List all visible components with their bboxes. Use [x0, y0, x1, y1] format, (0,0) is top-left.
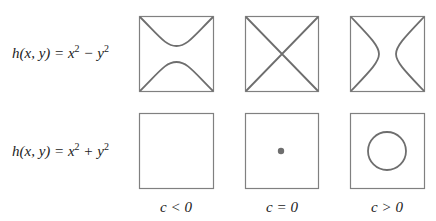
column-label-c-neg: c < 0	[136, 199, 216, 216]
hyperbola-right-branch	[396, 17, 424, 91]
hyperbola-upper-branch	[140, 17, 213, 46]
panel-bowl-c-neg	[140, 114, 214, 189]
level-point	[278, 148, 284, 154]
level-circle	[368, 132, 406, 170]
level-sets-diagram	[0, 0, 436, 221]
hyperbola-left-branch	[351, 17, 379, 91]
hyperbola-lower-branch	[140, 62, 213, 91]
column-label-c-pos: c > 0	[347, 199, 427, 216]
crossing-lines	[246, 17, 318, 91]
column-label-c-zero: c = 0	[242, 199, 322, 216]
panel-bowl-c-pos	[351, 114, 425, 189]
